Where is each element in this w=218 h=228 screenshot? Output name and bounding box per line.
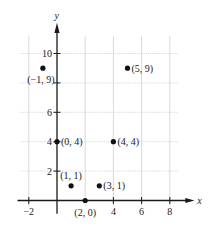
y-tick-label: 10 [42, 48, 52, 59]
x-tick-label: 4 [111, 206, 116, 217]
y-tick-label: 6 [47, 107, 52, 118]
y-tick-label: 2 [47, 166, 52, 177]
point-marker [69, 183, 74, 188]
y-axis-label: y [54, 10, 60, 21]
point-marker [83, 198, 88, 203]
point-label: (5, 9) [132, 63, 154, 75]
y-axis-arrow-icon [54, 23, 59, 33]
point-marker [40, 66, 45, 71]
point-marker [111, 139, 116, 144]
point-marker [54, 139, 59, 144]
x-tick-label: 6 [139, 206, 144, 217]
data-point: (3, 1) [97, 180, 125, 192]
x-tick-label: 8 [167, 206, 172, 217]
point-label: (−1, 9) [27, 74, 54, 86]
x-axis-arrow-icon [185, 198, 194, 203]
point-marker [125, 66, 130, 71]
scatter-chart: xy −246824610 (−1, 9)(5, 9)(0, 4)(4, 4)(… [0, 0, 218, 228]
point-label: (3, 1) [103, 180, 125, 192]
data-point: (5, 9) [125, 63, 153, 75]
x-axis-label: x [196, 195, 202, 206]
grid-lines [20, 36, 178, 207]
data-point: (0, 4) [54, 136, 82, 148]
point-marker [97, 183, 102, 188]
data-point: (1, 1) [60, 170, 82, 189]
point-label: (1, 1) [60, 170, 82, 182]
y-tick-label: 4 [47, 136, 52, 147]
point-label: (4, 4) [117, 136, 139, 148]
x-tick-label: −2 [23, 206, 34, 217]
point-label: (0, 4) [61, 136, 83, 148]
data-point: (4, 4) [111, 136, 139, 148]
data-point: (−1, 9) [27, 66, 54, 87]
point-label: (2, 0) [74, 207, 96, 219]
